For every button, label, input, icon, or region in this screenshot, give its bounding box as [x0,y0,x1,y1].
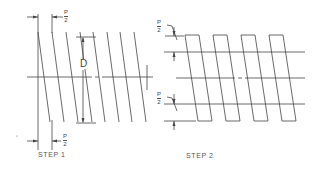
pitch-denominator: 2 [157,99,160,105]
d-arrow-bottom-icon [82,118,85,123]
step2-bottom-pitch-label: P 2 [157,91,161,105]
arrow-left-icon [52,16,57,19]
d-dimension-label: D [79,59,88,69]
pitch-numerator: P [157,91,161,97]
step1-bottom-pitch-label: P 2 [63,133,67,147]
pitch-numerator: P [157,19,161,25]
step1-drawing [16,14,153,150]
step2-drawing [164,25,305,130]
arrow-left-icon [52,140,57,143]
pitch-numerator: P [64,9,68,15]
step1-label: STEP 1 [38,151,66,158]
pitch-denominator: 2 [63,141,66,147]
arrow-right-icon [33,16,38,19]
arrow-right-icon [33,140,38,143]
step2-label: STEP 2 [186,152,214,159]
pitch-numerator: P [63,133,67,139]
step1-top-pitch-label: P 2 [64,9,68,23]
step2-top-pitch-label: P 2 [157,19,161,33]
step2-top-leader [167,25,177,40]
pitch-denominator: 2 [157,27,160,33]
stray-dot [16,135,17,136]
arrow-up-icon [173,121,176,126]
arrow-up-icon [173,52,176,57]
pitch-denominator: 2 [64,17,67,23]
d-arrow-top-icon [82,37,85,42]
